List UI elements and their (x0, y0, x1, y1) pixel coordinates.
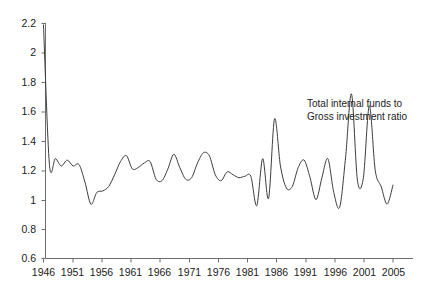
series-annotation-line-2: Gross investment ratio (307, 111, 407, 124)
chart-container: 2.2 2 1.8 1.6 1.4 1.2 1 0.8 0.6 1946 195… (0, 0, 424, 288)
y-tick-label-1-6: 1.6 (8, 106, 36, 117)
y-tick-label-0-6: 0.6 (8, 253, 36, 264)
y-tick-label-2-2: 2.2 (8, 18, 36, 29)
y-tick-label-2: 2 (8, 47, 36, 58)
y-tick-label-1-8: 1.8 (8, 77, 36, 88)
y-tick-label-1-4: 1.4 (8, 136, 36, 147)
y-tick-label-1: 1 (8, 195, 36, 206)
axis-lines (46, 23, 414, 259)
chart-plot-area (0, 0, 424, 288)
x-axis-ticks (44, 259, 394, 263)
x-tick-label-2005: 2005 (373, 267, 414, 278)
series-annotation: Total internal funds to Gross investment… (307, 98, 407, 123)
series-annotation-line-1: Total internal funds to (307, 98, 407, 111)
y-tick-label-1-2: 1.2 (8, 165, 36, 176)
y-tick-label-0-8: 0.8 (8, 224, 36, 235)
